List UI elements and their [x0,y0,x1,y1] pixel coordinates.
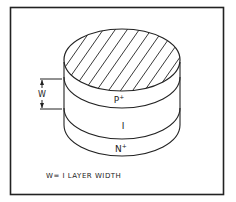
pin-diode-figure: P+ I N+ W W= I LAYER WIDTH [0,0,236,202]
figure-caption: W= I LAYER WIDTH [46,172,121,180]
layer-label-p: P+ [114,93,124,105]
top-ellipse-outline [64,29,180,91]
width-label: W [38,90,46,99]
layer-label-i: I [122,121,125,131]
layer-label-n: N+ [115,142,127,154]
top-contact-face [28,20,218,120]
arrow-up-icon [40,80,44,85]
arrow-down-icon [40,103,44,108]
diagram-canvas: P+ I N+ W W= I LAYER WIDTH [0,0,236,202]
